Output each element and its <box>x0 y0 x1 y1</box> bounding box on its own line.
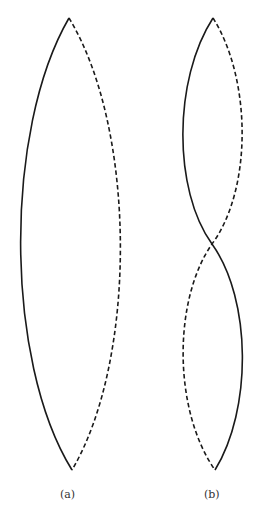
panel-a <box>21 18 121 470</box>
standing-wave-diagram <box>0 0 267 524</box>
panel-b-caption: (b) <box>204 488 220 501</box>
panel-b-dashed-curve <box>183 18 242 470</box>
panel-a-caption: (a) <box>60 488 75 501</box>
panel-a-solid-curve <box>21 18 72 470</box>
panel-a-dashed-curve <box>69 18 120 470</box>
panel-b <box>183 18 243 470</box>
